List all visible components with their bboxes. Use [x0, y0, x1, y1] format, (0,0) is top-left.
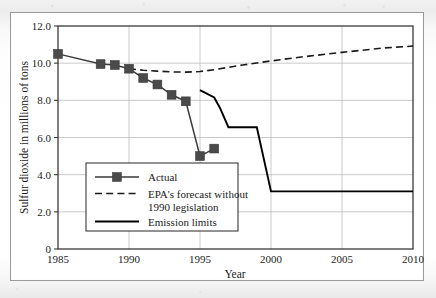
marker-1988 — [96, 60, 105, 69]
x-tick-label-2005: 2005 — [331, 253, 354, 265]
x-tick-label-1985: 1985 — [47, 253, 70, 265]
marker-1994 — [181, 97, 190, 106]
marker-1992 — [153, 80, 162, 89]
marker-1995 — [196, 152, 205, 161]
x-axis-title: Year — [224, 268, 245, 280]
legend-label-actual: Actual — [148, 171, 177, 183]
chart-legend: Actual EPA's forecast without 1990 legis… — [86, 163, 248, 231]
figure-frame: 0 2.0 4.0 6.0 8.0 10.0 12.0 1985 1990 19… — [10, 12, 424, 281]
scanned-page: 0 2.0 4.0 6.0 8.0 10.0 12.0 1985 1990 19… — [0, 0, 436, 298]
legend-label-epa-forecast-line1: EPA's forecast without — [148, 188, 248, 200]
legend-label-emission-limits: Emission limits — [148, 216, 217, 228]
sulfur-dioxide-line-chart: 0 2.0 4.0 6.0 8.0 10.0 12.0 1985 1990 19… — [11, 13, 425, 282]
y-tick-label-6: 6.0 — [37, 132, 51, 144]
x-tick-label-2010: 2010 — [402, 253, 425, 265]
x-tick-label-2000: 2000 — [260, 253, 283, 265]
marker-1989 — [110, 61, 119, 70]
y-tick-label-2: 2.0 — [37, 206, 51, 218]
legend-swatch-actual-marker — [113, 173, 122, 182]
legend-label-epa-forecast-line2: 1990 legislation — [148, 201, 219, 213]
y-axis-title: Sulfur dioxide in millions of tons — [18, 60, 30, 214]
marker-1985 — [54, 50, 63, 59]
marker-1990 — [125, 64, 134, 73]
y-axis-tick-labels: 0 2.0 4.0 6.0 8.0 10.0 12.0 — [32, 20, 52, 255]
y-tick-label-10: 10.0 — [32, 57, 52, 69]
marker-1993 — [167, 90, 176, 99]
x-axis-tick-labels: 1985 1990 1995 2000 2005 2010 — [47, 253, 425, 265]
x-tick-label-1990: 1990 — [118, 253, 141, 265]
y-tick-label-4: 4.0 — [37, 169, 51, 181]
marker-1996 — [210, 144, 219, 153]
y-tick-label-8: 8.0 — [37, 94, 51, 106]
marker-1991 — [139, 74, 148, 83]
x-tick-label-1995: 1995 — [189, 253, 212, 265]
y-tick-label-12: 12.0 — [32, 20, 52, 32]
